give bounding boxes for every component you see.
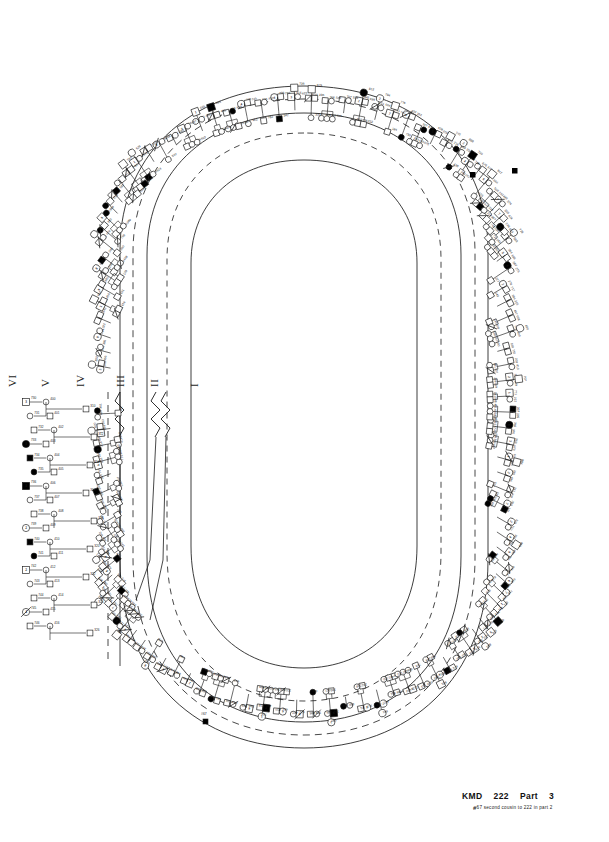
svg-text:423: 423 [492,429,497,435]
svg-text:2: 2 [25,526,27,530]
male-symbol [91,434,97,440]
svg-text:681: 681 [282,707,288,711]
male-symbol: 2 [22,566,29,573]
svg-text:611: 611 [312,689,317,693]
svg-text:200: 200 [495,341,501,347]
svg-text:410: 410 [54,537,59,541]
svg-text:671: 671 [325,688,331,692]
svg-text:732: 732 [38,425,43,429]
svg-text:312: 312 [98,432,103,436]
svg-text:759: 759 [405,132,411,138]
footnote-text: 67 second cousin to 222 in part 2 [477,805,553,810]
family-number: 222 [494,791,509,801]
svg-text:740: 740 [179,654,186,660]
svg-text:409: 409 [50,523,55,527]
svg-text:413: 413 [515,364,520,370]
svg-text:307: 307 [516,407,520,413]
generation-label-ii: II [148,379,160,387]
male-symbol [507,357,514,364]
svg-text:318: 318 [98,516,103,520]
generation-label-i: I [188,383,200,387]
pedigree-symbol-field: 3975694155241987285298693721163735542476… [0,0,609,842]
male-symbol [510,406,516,412]
chart-caption: KMD 222 Part 3 #67 second cousin to 222 … [462,791,607,811]
svg-text:326: 326 [94,628,99,632]
svg-text:332: 332 [367,119,373,124]
female-symbol [507,380,513,386]
svg-text:379: 379 [316,711,322,715]
male-symbol [487,291,495,299]
male-symbol [27,539,33,545]
svg-text:214: 214 [118,432,123,438]
male-symbol [43,525,49,531]
svg-text:163: 163 [496,238,503,245]
svg-text:733: 733 [31,438,36,442]
svg-text:746: 746 [34,621,39,625]
svg-text:631: 631 [119,288,125,295]
svg-text:472: 472 [299,710,305,714]
family-code: KMD [462,791,483,801]
svg-text:235: 235 [319,93,325,97]
svg-text:203: 203 [214,672,220,677]
svg-text:717: 717 [510,286,516,293]
female-symbol [27,581,33,587]
svg-text:290: 290 [248,704,254,709]
svg-text:374: 374 [506,199,513,206]
svg-text:243: 243 [494,291,500,298]
svg-text:279: 279 [515,267,521,274]
svg-text:424: 424 [507,214,514,221]
female-symbol [324,116,330,122]
svg-text:466: 466 [259,685,265,690]
male-symbol: 3 [22,482,29,489]
svg-text:665: 665 [200,104,206,110]
svg-text:678: 678 [105,229,112,236]
svg-text:404: 404 [54,453,59,457]
male-symbol [487,414,493,420]
male-symbol [312,95,318,101]
female-symbol [470,192,478,200]
svg-text:710: 710 [511,349,516,355]
svg-text:218: 218 [453,141,460,147]
generation-label-row: VIVIVIIIIII [0,365,215,393]
male-symbol: 3 [22,398,29,405]
svg-text:762: 762 [202,667,208,673]
svg-text:402: 402 [58,425,63,429]
male-symbol [308,86,315,93]
svg-text:203: 203 [514,358,519,364]
svg-text:784: 784 [385,92,391,97]
svg-text:412: 412 [50,565,55,569]
svg-text:669: 669 [510,343,515,349]
svg-text:215: 215 [514,299,520,306]
svg-text:320: 320 [94,544,99,548]
svg-text:644: 644 [231,700,237,705]
svg-text:435: 435 [493,415,497,421]
svg-text:734: 734 [34,453,39,457]
svg-text:526: 526 [423,141,430,147]
svg-text:744: 744 [38,593,43,597]
female-symbol [508,363,515,370]
svg-text:316: 316 [90,488,95,492]
svg-text:728: 728 [518,228,525,235]
svg-text:4: 4 [25,610,27,614]
male-symbol [322,97,328,103]
svg-text:411: 411 [58,551,63,555]
svg-text:499: 499 [369,97,375,102]
svg-text:414: 414 [58,593,63,597]
female-symbol [27,497,33,503]
proband-marker: #67 [201,712,208,724]
female-symbol [487,408,493,414]
svg-text:694: 694 [108,205,115,212]
svg-text:391: 391 [511,429,516,435]
svg-text:580: 580 [115,490,121,497]
svg-text:381: 381 [102,339,107,345]
male-symbol [207,103,216,112]
svg-text:664: 664 [492,178,499,185]
caption-title-line: KMD 222 Part 3 [462,791,607,801]
svg-text:349: 349 [125,218,132,225]
male-symbol [510,412,516,418]
svg-text:307: 307 [116,476,122,483]
svg-text:698: 698 [510,254,516,261]
male-symbol [506,444,513,451]
svg-text:820: 820 [93,422,98,428]
male-symbol [503,342,510,349]
